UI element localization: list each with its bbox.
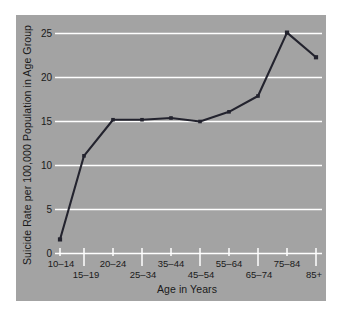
y-tick-label-10: 10 — [41, 160, 53, 171]
x-tick-labels-upper: 10–14 20–24 35–44 55–64 75–84 — [48, 258, 300, 269]
data-point — [256, 94, 260, 98]
x-tick-label-85plus: 85+ — [306, 269, 323, 280]
y-tick-label-25: 25 — [41, 28, 53, 39]
data-point — [198, 120, 202, 124]
y-tick-label-5: 5 — [46, 204, 52, 215]
x-tick-label-35-44: 35–44 — [158, 258, 184, 269]
x-tick-label-55-64: 55–64 — [216, 258, 242, 269]
y-tick-label-15: 15 — [41, 116, 53, 127]
data-point — [140, 118, 144, 122]
gridlines — [59, 34, 322, 210]
x-tick-label-15-19: 15–19 — [73, 269, 99, 280]
data-point — [82, 154, 86, 158]
x-tick-label-25-34: 25–34 — [130, 269, 156, 280]
data-point — [58, 237, 62, 241]
x-tick-label-20-24: 20–24 — [100, 258, 126, 269]
y-axis-title: Suicide Rate per 100,000 Population in A… — [21, 25, 33, 265]
data-point — [111, 118, 115, 122]
data-point — [227, 110, 231, 114]
x-axis-title: Age in Years — [157, 283, 217, 295]
series-line — [60, 33, 316, 240]
y-tick-labels: 25 20 15 10 5 0 — [41, 28, 53, 259]
y-tick-marks — [55, 34, 59, 254]
line-chart: Suicide Rate per 100,000 Population in A… — [0, 0, 339, 313]
x-tick-label-45-54: 45–54 — [188, 269, 214, 280]
x-tick-label-75-84: 75–84 — [274, 258, 300, 269]
data-point — [285, 31, 289, 35]
y-tick-label-20: 20 — [41, 72, 53, 83]
data-point — [169, 116, 173, 120]
x-tick-label-10-14: 10–14 — [48, 258, 74, 269]
data-point — [314, 55, 318, 59]
chart-figure: Suicide Rate per 100,000 Population in A… — [0, 0, 339, 313]
x-tick-labels-lower: 15–19 25–34 45–54 65–74 85+ — [73, 269, 323, 280]
x-tick-label-65-74: 65–74 — [246, 269, 272, 280]
